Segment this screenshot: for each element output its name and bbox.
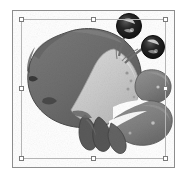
editor-canvas[interactable]	[0, 0, 187, 181]
bottom-left-resize-handle[interactable]	[19, 156, 24, 161]
top-left-resize-handle[interactable]	[19, 17, 24, 22]
crab-eye-lower	[142, 36, 165, 59]
crab-illustration[interactable]	[13, 11, 174, 167]
top-center-resize-handle[interactable]	[91, 17, 96, 22]
middle-right-resize-handle[interactable]	[163, 86, 168, 91]
middle-left-resize-handle[interactable]	[19, 86, 24, 91]
top-right-resize-handle[interactable]	[163, 17, 168, 22]
crab-eye-upper	[117, 14, 142, 39]
bottom-center-resize-handle[interactable]	[91, 156, 96, 161]
bottom-right-resize-handle[interactable]	[163, 156, 168, 161]
